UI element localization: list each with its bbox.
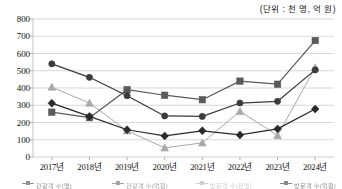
data-point-square — [237, 78, 243, 84]
x-tick-label: 2020년 — [153, 160, 177, 172]
unit-note: (단위 : 천 명, 억 원) — [260, 2, 336, 14]
legend-triangle-icon — [196, 181, 208, 186]
y-tick-label: 500 — [0, 66, 30, 76]
data-point-circle — [162, 113, 168, 119]
data-point-square — [199, 97, 205, 103]
data-point-circle — [237, 100, 243, 106]
series-circle — [49, 61, 319, 120]
data-point-triangle — [48, 83, 56, 90]
legend-label: 관광객 수(명) — [36, 181, 72, 189]
x-tick-label: 2018년 — [77, 160, 101, 172]
chart-svg — [0, 14, 342, 160]
plot-area: 8007006005004003002001000 — [0, 14, 342, 160]
legend-item: 관광객 수(명) — [22, 181, 72, 189]
y-tick-label: 400 — [0, 83, 30, 93]
data-point-square — [274, 81, 280, 87]
data-point-diamond — [48, 99, 56, 107]
y-tick-label: 200 — [0, 118, 30, 128]
x-tick-label: 2021년 — [190, 160, 214, 172]
data-point-square — [124, 87, 130, 93]
data-point-circle — [49, 61, 55, 67]
y-tick-label: 600 — [0, 49, 30, 59]
data-point-diamond — [161, 132, 169, 140]
x-tick-label: 2024년 — [303, 160, 327, 172]
chart-container: (단위 : 천 명, 억 원) 800700600500400300200100… — [0, 0, 342, 189]
data-point-circle — [312, 67, 318, 73]
legend-item: 방문객 수(천명) — [196, 181, 252, 189]
data-point-square — [161, 92, 167, 98]
legend-item: 방문객 수(억원) — [280, 181, 336, 189]
data-point-circle — [199, 113, 205, 119]
data-point-square — [312, 37, 318, 43]
x-tick-label: 2019년 — [115, 160, 139, 172]
data-point-circle — [86, 74, 92, 80]
data-point-circle — [124, 93, 130, 99]
legend-label: 방문객 수(천명) — [210, 181, 252, 189]
legend-item: 관광객 수(억원) — [112, 181, 168, 189]
legend-label: 방문객 수(억원) — [294, 181, 336, 189]
y-tick-label: 100 — [0, 135, 30, 145]
data-point-triangle — [236, 107, 244, 114]
y-tick-label: 300 — [0, 100, 30, 110]
x-axis-tick-labels: 2017년2018년2019년2020년2021년2022년2023년2024년 — [0, 160, 342, 174]
data-point-diamond — [199, 127, 207, 135]
y-tick-label: 700 — [0, 31, 30, 41]
data-point-circle — [274, 98, 280, 104]
chart-legend: 관광객 수(명)관광객 수(억원)방문객 수(천명)방문객 수(억원) — [0, 181, 342, 189]
data-point-diamond — [274, 125, 282, 133]
legend-square-icon — [112, 181, 124, 186]
data-point-diamond — [311, 105, 319, 113]
x-tick-label: 2023년 — [265, 160, 289, 172]
x-tick-label: 2017년 — [40, 160, 64, 172]
legend-diamond-icon — [280, 181, 292, 186]
y-tick-label: 800 — [0, 14, 30, 24]
data-point-square — [49, 109, 55, 115]
x-tick-label: 2022년 — [228, 160, 252, 172]
series-line — [52, 64, 315, 117]
data-point-diamond — [236, 131, 244, 139]
data-point-triangle — [86, 99, 94, 106]
legend-label: 관광객 수(억원) — [126, 181, 168, 189]
legend-circle-icon — [22, 181, 34, 186]
